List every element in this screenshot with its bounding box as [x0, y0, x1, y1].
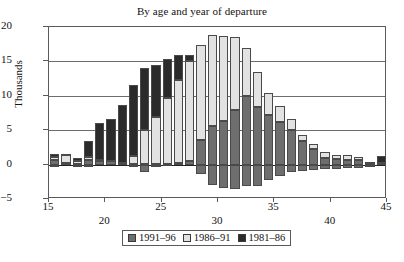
bar-segment	[208, 126, 217, 165]
bar-segment	[309, 149, 318, 165]
bar-segment-negative	[298, 165, 307, 171]
bar-column	[230, 27, 239, 197]
bar-segment	[332, 155, 341, 159]
y-axis-tick-label: 0	[0, 157, 12, 169]
legend-swatch-icon	[238, 234, 246, 242]
bar-segment	[73, 161, 82, 164]
x-axis-tick-mark	[161, 198, 162, 202]
bar-column	[275, 27, 284, 197]
bar-column	[219, 27, 228, 197]
bar-segment	[219, 36, 228, 121]
bar-segment-negative	[320, 165, 329, 170]
bar-column	[174, 27, 183, 197]
bar-column	[106, 27, 115, 197]
bar-segment	[275, 122, 284, 165]
bar-segment	[208, 35, 217, 126]
bar-segment-negative	[140, 165, 149, 173]
bar-segment-negative	[253, 165, 262, 186]
bar-segment	[264, 93, 273, 115]
bar-column	[343, 27, 352, 197]
bar-column	[118, 27, 127, 197]
legend-swatch-icon	[128, 234, 136, 242]
bar-segment-negative	[354, 165, 363, 168]
bar-segment-negative	[84, 165, 93, 167]
bar-segment	[287, 130, 296, 164]
bar-segment-negative	[242, 165, 251, 186]
bar-segment	[219, 121, 228, 164]
bar-segment	[84, 141, 93, 157]
bar-segment-negative	[151, 165, 160, 167]
bar-segment-negative	[129, 165, 138, 167]
bar-segment-negative	[309, 165, 318, 171]
bar-segment	[377, 163, 386, 165]
bar-segment-negative	[287, 165, 296, 173]
bar-column	[84, 27, 93, 197]
bar-segment	[242, 48, 251, 96]
bar-segment	[140, 68, 149, 131]
bar-segment	[365, 162, 374, 164]
bar-segment	[309, 144, 318, 149]
bar-segment	[196, 140, 205, 165]
legend-label: 1986–91	[194, 232, 231, 243]
bar-segment	[174, 163, 183, 165]
bar-segment	[50, 154, 59, 157]
bar-segment	[230, 110, 239, 165]
bar-column	[354, 27, 363, 197]
bar-segment-negative	[73, 165, 82, 167]
chart-figure: By age and year of departure Thousands 2…	[0, 0, 404, 262]
bar-segment	[61, 163, 70, 165]
bar-segment-negative	[230, 165, 239, 189]
bar-segment	[151, 65, 160, 117]
bar-segment-negative	[343, 165, 352, 168]
bar-segment	[61, 154, 70, 156]
x-axis-tick-mark	[217, 198, 218, 202]
bar-segment	[118, 105, 127, 163]
bar-segment-negative	[208, 165, 217, 185]
bar-segment	[230, 37, 239, 109]
bar-column	[196, 27, 205, 197]
bar-column	[95, 27, 104, 197]
bar-column	[298, 27, 307, 197]
bar-segment	[253, 107, 262, 165]
bar-segment	[185, 161, 194, 164]
bar-segment	[129, 156, 138, 164]
bar-segment-negative	[275, 165, 284, 177]
bar-column	[365, 27, 374, 197]
bar-segment	[287, 119, 296, 130]
x-axis-tick-label: 40	[315, 214, 345, 226]
bar-segment	[84, 157, 93, 160]
y-axis-tick-label: 15	[0, 53, 12, 65]
bar-segment	[118, 163, 127, 165]
bar-segment	[140, 130, 149, 164]
bar-segment	[106, 119, 115, 162]
bar-segment	[242, 96, 251, 165]
bar-column	[309, 27, 318, 197]
bar-column	[129, 27, 138, 197]
x-axis-tick-mark	[48, 198, 49, 202]
bar-segment	[106, 161, 115, 164]
x-axis-tick-mark	[330, 198, 331, 202]
bar-segment	[50, 157, 59, 160]
bar-segment	[129, 85, 138, 156]
x-axis-tick-mark	[386, 198, 387, 202]
x-axis-tick-label: 30	[202, 214, 232, 226]
bar-column	[264, 27, 273, 197]
bar-column	[61, 27, 70, 197]
legend-item: 1986–91	[183, 232, 231, 243]
y-axis-tick-label: −5	[0, 191, 12, 203]
legend-label: 1991–96	[139, 232, 176, 243]
bar-segment	[163, 59, 172, 98]
bar-column	[377, 27, 386, 197]
y-axis-tick-label: 20	[0, 19, 12, 31]
legend-swatch-icon	[183, 234, 191, 242]
bar-column	[50, 27, 59, 197]
chart-title: By age and year of departure	[0, 5, 404, 17]
x-axis-tick-mark	[273, 198, 274, 202]
bar-column	[208, 27, 217, 197]
plot-area	[48, 26, 386, 198]
bar-segment	[95, 160, 104, 162]
bar-segment	[61, 154, 70, 163]
bar-column	[163, 27, 172, 197]
bar-column	[320, 27, 329, 197]
bar-segment	[298, 135, 307, 141]
